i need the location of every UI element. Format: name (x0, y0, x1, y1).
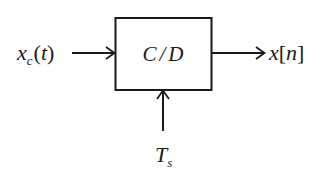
input-subscript: c (27, 53, 33, 68)
input-symbol: x (16, 40, 27, 65)
sampling-subscript: s (167, 155, 172, 170)
block-label: C/D (142, 42, 183, 66)
output-close-bracket: ] (297, 40, 304, 65)
input-signal-label: xc(t) (16, 40, 54, 68)
block-label-d: D (167, 42, 183, 66)
output-signal-label: x[n] (268, 40, 304, 65)
cd-converter-diagram: C/D xc(t) x[n] Ts (0, 0, 325, 174)
output-symbol: x (268, 40, 279, 65)
input-close-paren: ) (47, 40, 54, 65)
block-label-slash: / (159, 42, 168, 66)
output-argument: n (286, 40, 297, 65)
sampling-period-label: Ts (155, 142, 172, 170)
sampling-period-arrow (157, 91, 169, 132)
block-label-c: C (142, 42, 157, 66)
output-open-bracket: [ (279, 40, 286, 65)
input-open-paren: ( (34, 40, 41, 65)
output-arrow (212, 47, 265, 59)
input-arrow (72, 47, 115, 59)
